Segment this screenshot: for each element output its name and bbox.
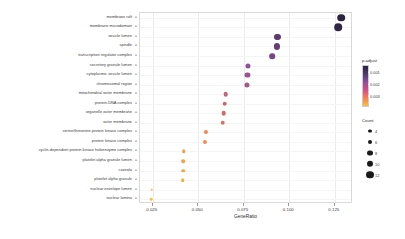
gridline-vertical bbox=[153, 13, 154, 202]
data-point[interactable] bbox=[182, 150, 186, 154]
y-axis-tick-label: platelet alpha granule bbox=[94, 177, 132, 181]
data-point[interactable] bbox=[181, 169, 185, 173]
gridline-horizontal bbox=[140, 56, 351, 57]
y-axis-tick-mark bbox=[135, 188, 137, 189]
legend-count-label: 12 bbox=[375, 172, 379, 177]
data-point[interactable] bbox=[274, 34, 280, 40]
gridline-horizontal bbox=[140, 46, 351, 47]
y-axis-tick-mark bbox=[135, 169, 137, 170]
legend-count-dot bbox=[367, 150, 372, 155]
data-point[interactable] bbox=[337, 14, 345, 22]
y-axis-tick-mark bbox=[135, 150, 137, 151]
gridline-vertical bbox=[244, 13, 245, 202]
y-axis-tick-label: serine/threonine protein kinase complex bbox=[62, 129, 132, 133]
go-enrichment-dotplot: membrane raftmembrane microdomainvesicle… bbox=[0, 0, 405, 239]
data-point[interactable] bbox=[222, 101, 227, 106]
y-axis-tick-label: membrane microdomain bbox=[90, 24, 132, 28]
y-axis-tick-mark bbox=[135, 36, 137, 37]
data-point[interactable] bbox=[273, 43, 279, 49]
y-axis-labels: membrane raftmembrane microdomainvesicle… bbox=[0, 12, 137, 203]
gridline-horizontal bbox=[140, 199, 351, 200]
legend-count-item: 12 bbox=[362, 169, 373, 180]
gridline-horizontal bbox=[140, 18, 351, 19]
y-axis-tick-mark bbox=[135, 198, 137, 199]
y-axis-tick-mark bbox=[135, 131, 137, 132]
y-axis-tick-mark bbox=[135, 112, 137, 113]
data-point[interactable] bbox=[203, 130, 207, 134]
x-axis-tick-mark bbox=[334, 203, 335, 206]
y-axis-tick-label: cytoplasmic vesicle lumen bbox=[87, 72, 132, 76]
y-axis-tick-label: nuclear envelope lumen bbox=[90, 186, 132, 190]
legend-count-label: 10 bbox=[375, 161, 379, 166]
x-axis-tick-label: 0.125 bbox=[328, 207, 339, 212]
gridline-horizontal bbox=[140, 94, 351, 95]
x-axis-tick-label: 0.075 bbox=[237, 207, 248, 212]
y-axis-tick-mark bbox=[135, 74, 137, 75]
legend-count-dot bbox=[368, 129, 371, 132]
x-axis-tick-mark bbox=[152, 203, 153, 206]
data-point[interactable] bbox=[203, 140, 207, 144]
legend-count-item: 6 bbox=[362, 136, 373, 147]
y-axis-tick-mark bbox=[135, 102, 137, 103]
gridline-horizontal bbox=[140, 132, 351, 133]
plot-panel bbox=[139, 12, 352, 203]
gridline-vertical bbox=[335, 13, 336, 202]
data-point[interactable] bbox=[221, 121, 226, 126]
colorbar-tick-label: 0.003 bbox=[370, 94, 380, 99]
gridline-horizontal bbox=[140, 161, 351, 162]
y-axis-tick-mark bbox=[135, 45, 137, 46]
y-axis-tick-label: platelet alpha granule lumen bbox=[83, 158, 132, 162]
y-axis-tick-mark bbox=[135, 16, 137, 17]
data-point[interactable] bbox=[223, 92, 228, 97]
x-axis-tick-label: 0.025 bbox=[146, 207, 157, 212]
y-axis-tick-mark bbox=[135, 93, 137, 94]
legend-count-items: 4681012 bbox=[362, 125, 373, 180]
gridline-horizontal bbox=[140, 104, 351, 105]
data-point[interactable] bbox=[245, 73, 250, 78]
x-axis-tick-mark bbox=[197, 203, 198, 206]
gridline-horizontal bbox=[140, 171, 351, 172]
y-axis-tick-label: caveola bbox=[118, 167, 132, 171]
legend-count: Count 4681012 bbox=[362, 118, 373, 180]
data-point[interactable] bbox=[182, 159, 186, 163]
gridline-horizontal bbox=[140, 180, 351, 181]
data-point[interactable] bbox=[181, 178, 185, 182]
y-axis-tick-label: secretory granule lumen bbox=[90, 62, 132, 66]
legend-count-label: 4 bbox=[375, 128, 377, 133]
gridline-horizontal bbox=[140, 142, 351, 143]
legend-padjust-title: p.adjust bbox=[362, 58, 377, 63]
x-axis-tick-label: 0.100 bbox=[283, 207, 294, 212]
legend-count-item: 8 bbox=[362, 147, 373, 158]
gridline-vertical bbox=[289, 13, 290, 202]
data-point[interactable] bbox=[151, 188, 154, 191]
data-point[interactable] bbox=[221, 111, 226, 116]
y-axis-tick-mark bbox=[135, 26, 137, 27]
gridline-vertical bbox=[198, 13, 199, 202]
y-axis-tick-mark bbox=[135, 55, 137, 56]
data-point[interactable] bbox=[335, 24, 343, 32]
y-axis-tick-mark bbox=[135, 121, 137, 122]
legend-count-label: 6 bbox=[375, 139, 377, 144]
colorbar-tick-label: 0.002 bbox=[370, 82, 380, 87]
legend-count-dot bbox=[366, 171, 374, 179]
legend-count-label: 8 bbox=[375, 150, 377, 155]
colorbar-tick-label: 0.001 bbox=[370, 70, 380, 75]
legend-count-dot bbox=[367, 160, 373, 166]
y-axis-tick-label: chromosomal region bbox=[96, 81, 132, 85]
y-axis-tick-mark bbox=[135, 64, 137, 65]
x-axis-title: GeneRatio bbox=[139, 214, 352, 219]
legend-count-item: 4 bbox=[362, 125, 373, 136]
y-axis-tick-mark bbox=[135, 83, 137, 84]
y-axis-tick-label: protein kinase complex bbox=[92, 139, 132, 143]
x-axis-tick-label: 0.050 bbox=[192, 207, 203, 212]
y-axis-tick-label: nuclear lamina bbox=[106, 196, 132, 200]
y-axis-tick-label: cyclin-dependent protein kinase holoenzy… bbox=[39, 148, 132, 152]
data-point[interactable] bbox=[269, 53, 275, 59]
gridline-horizontal bbox=[140, 27, 351, 28]
data-point[interactable] bbox=[244, 82, 249, 87]
data-point[interactable] bbox=[150, 198, 153, 201]
x-axis-tick-mark bbox=[243, 203, 244, 206]
y-axis-tick-label: organelle outer membrane bbox=[86, 110, 132, 114]
data-point[interactable] bbox=[246, 63, 251, 68]
gridline-horizontal bbox=[140, 151, 351, 152]
